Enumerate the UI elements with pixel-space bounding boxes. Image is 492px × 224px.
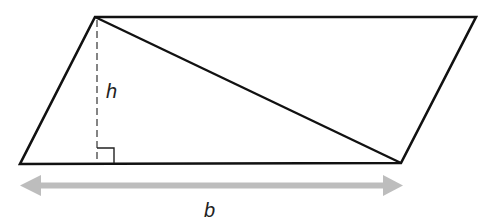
base-double-arrow xyxy=(20,175,403,196)
right-angle-marker xyxy=(97,148,114,163)
base-arrow-shaft xyxy=(36,183,388,189)
diagonal-line xyxy=(95,17,401,163)
base-arrow-left-head xyxy=(20,175,41,196)
height-label: h xyxy=(106,81,117,101)
base-arrow-right-head xyxy=(383,175,403,196)
base-label: b xyxy=(204,200,215,220)
parallelogram-diagram xyxy=(0,0,492,224)
